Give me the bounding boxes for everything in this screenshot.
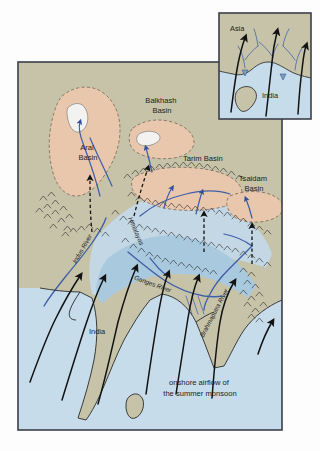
basin-label-tsaidam-line2: Basin bbox=[245, 184, 264, 193]
inset-label-asia: Asia bbox=[230, 24, 245, 33]
basin-label-tarim: Tarim Basin bbox=[183, 154, 223, 163]
inset-label-india: India bbox=[262, 91, 279, 100]
tsaidam-basin-area bbox=[227, 192, 283, 223]
inset-map: Asia India bbox=[219, 13, 311, 119]
basin-label-balkhash-line2: Basin bbox=[153, 106, 172, 115]
basin-label-aral: Aral Basin bbox=[79, 143, 98, 162]
map-figure: Aral Basin Balkhash Basin Tarim Basin Ts… bbox=[0, 0, 320, 451]
map-caption-line2: the summer monsoon bbox=[163, 389, 236, 398]
basin-label-balkhash-line1: Balkhash bbox=[145, 96, 176, 105]
basin-label-tsaidam-line1: Tsaidam bbox=[239, 174, 267, 183]
figure-canvas: Aral Basin Balkhash Basin Tarim Basin Ts… bbox=[0, 0, 320, 451]
basin-label-aral-line1: Aral bbox=[80, 143, 94, 152]
map-caption-line1: onshore airflow of bbox=[169, 378, 230, 387]
basin-label-aral-line2: Basin bbox=[79, 153, 98, 162]
region-label-india: India bbox=[89, 327, 106, 336]
